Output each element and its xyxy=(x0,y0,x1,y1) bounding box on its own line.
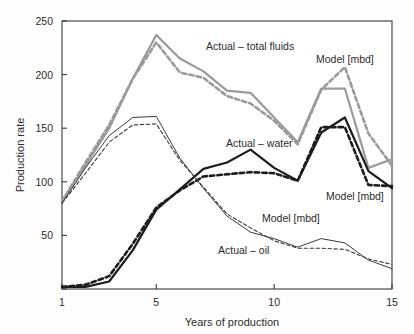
ann-model-water: Model [mbd] xyxy=(326,190,384,202)
x-tick-label-10: 10 xyxy=(268,296,280,308)
ann-model-oil: Model [mbd] xyxy=(262,212,320,224)
y-tick-label-100: 100 xyxy=(35,176,53,188)
y-axis-tick-labels: 50100150200250 xyxy=(35,15,53,241)
y-tick-label-250: 250 xyxy=(35,15,53,27)
chart-figure: 50100150200250 151015 Actual – total flu… xyxy=(0,0,414,334)
ann-water: Actual – water xyxy=(226,137,293,149)
x-axis-title: Years of production xyxy=(185,316,279,328)
x-tick-label-1: 1 xyxy=(59,296,65,308)
y-tick-label-200: 200 xyxy=(35,69,53,81)
production-rate-line-chart: 50100150200250 151015 Actual – total flu… xyxy=(0,0,414,334)
x-tick-label-5: 5 xyxy=(153,296,159,308)
x-tick-label-15: 15 xyxy=(386,296,398,308)
ann-total-fluids: Actual – total fluids xyxy=(206,40,294,52)
y-tick-label-150: 150 xyxy=(35,122,53,134)
x-axis-tick-labels: 151015 xyxy=(59,296,398,308)
ann-model-total-fluids: Model [mbd] xyxy=(316,53,374,65)
ann-oil: Actual – oil xyxy=(218,244,269,256)
y-tick-label-50: 50 xyxy=(41,229,53,241)
y-axis-title: Production rate xyxy=(14,118,26,193)
